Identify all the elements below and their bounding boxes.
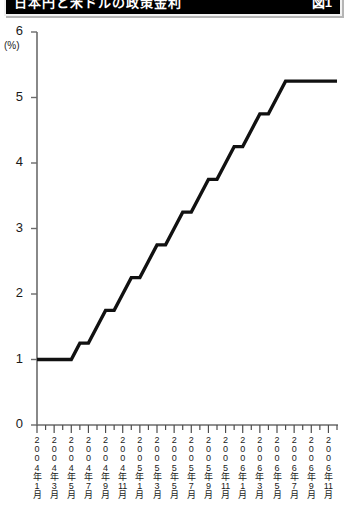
x-axis-tick-label: 2 0 0 5 年 3 月: [152, 436, 163, 500]
x-axis-tick-label: 2 0 0 6 年 11 月: [323, 436, 334, 500]
x-axis-tick-label: 2 0 0 6 年 7 月: [289, 436, 300, 500]
y-axis-tick-label: 2: [5, 285, 23, 300]
x-axis-tick-label: 2 0 0 6 年 3 月: [254, 436, 265, 500]
y-axis-tick-label: 3: [5, 220, 23, 235]
x-axis-tick-label: 2 0 0 5 年 11 月: [220, 436, 231, 500]
x-axis-tick-label: 2 0 0 4 年 7 月: [83, 436, 94, 500]
y-axis-tick-label: 1: [5, 351, 23, 366]
y-axis-tick-label: 6: [5, 23, 23, 38]
x-axis-tick-label: 2 0 0 5 年 7 月: [186, 436, 197, 500]
data-series-line: [37, 81, 337, 359]
y-axis-tick-label: 0: [5, 416, 23, 431]
y-axis-unit-label: (%): [4, 40, 20, 51]
line-chart: 0123456(%)2 0 0 4 年 1 月2 0 0 4 年 3 月2 0 …: [0, 0, 350, 532]
x-axis-tick-label: 2 0 0 6 年 5 月: [272, 436, 283, 500]
x-axis-tick-label: 2 0 0 6 年 1 月: [237, 436, 248, 500]
x-axis-tick-label: 2 0 0 5 年 5 月: [169, 436, 180, 500]
x-axis-tick-label: 2 0 0 5 年 1 月: [134, 436, 145, 500]
x-axis-tick-label: 2 0 0 4 年 5 月: [66, 436, 77, 500]
x-axis-tick-label: 2 0 0 6 年 9 月: [306, 436, 317, 500]
x-axis-tick-label: 2 0 0 4 年 1 月: [32, 436, 43, 500]
x-axis-tick-label: 2 0 0 5 年 9 月: [203, 436, 214, 500]
x-axis-tick-label: 2 0 0 4 年 9 月: [100, 436, 111, 500]
y-axis-tick-label: 4: [5, 154, 23, 169]
x-axis-tick-label: 2 0 0 4 年 11 月: [117, 436, 128, 500]
x-axis-tick-label: 2 0 0 4 年 3 月: [49, 436, 60, 500]
y-axis-tick-label: 5: [5, 89, 23, 104]
